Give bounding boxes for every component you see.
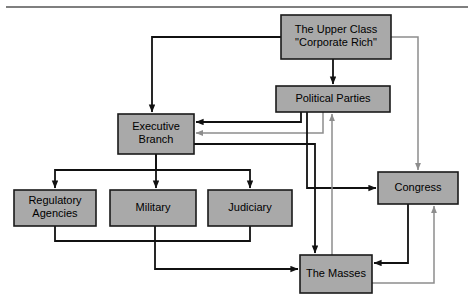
node-layer: The Upper Class"Corporate Rich"Political… — [14, 15, 458, 293]
node-upper-class[interactable]: The Upper Class"Corporate Rich" — [281, 15, 391, 59]
node-box-executive-branch[interactable] — [118, 114, 194, 154]
node-judiciary[interactable]: Judiciary — [208, 190, 292, 226]
edge-executive-to-judiciary — [156, 170, 250, 188]
node-box-military[interactable] — [110, 190, 196, 226]
edge-regulatory-to-masses — [55, 226, 155, 241]
edge-executive-to-regulatory — [55, 154, 156, 188]
node-political-parties[interactable]: Political Parties — [276, 86, 390, 112]
edge-masses-to-congress — [372, 206, 434, 283]
node-the-masses[interactable]: The Masses — [300, 255, 372, 293]
node-box-political-parties[interactable] — [276, 86, 390, 112]
node-congress[interactable]: Congress — [378, 172, 458, 204]
edge-political-parties-to-congress — [307, 112, 376, 188]
edge-layer — [55, 37, 434, 283]
diagram-canvas: The Upper Class"Corporate Rich"Political… — [0, 0, 474, 305]
node-military[interactable]: Military — [110, 190, 196, 226]
node-box-upper-class[interactable] — [281, 15, 391, 59]
node-box-congress[interactable] — [378, 172, 458, 204]
node-box-judiciary[interactable] — [208, 190, 292, 226]
edge-judiciary-to-masses — [155, 226, 250, 241]
edge-military-to-masses — [155, 226, 298, 269]
edge-congress-to-masses — [374, 204, 408, 263]
edge-upper-class-to-congress — [391, 37, 418, 170]
edge-political-parties-to-executive — [196, 112, 301, 122]
node-executive-branch[interactable]: ExecutiveBranch — [118, 114, 194, 154]
node-box-the-masses[interactable] — [300, 255, 372, 293]
power-structure-diagram: The Upper Class"Corporate Rich"Political… — [0, 0, 474, 305]
node-regulatory-agencies[interactable]: RegulatoryAgencies — [14, 190, 96, 226]
edge-upper-class-to-executive — [152, 37, 281, 112]
node-box-regulatory-agencies[interactable] — [14, 190, 96, 226]
